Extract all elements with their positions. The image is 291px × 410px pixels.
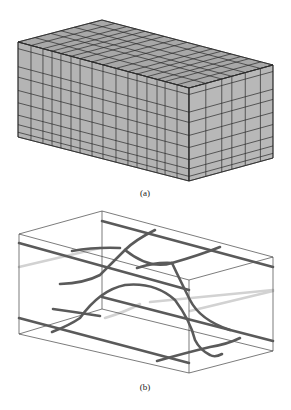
panel-a-label: (a) bbox=[140, 188, 150, 198]
panel-b-label: (b) bbox=[140, 382, 151, 392]
panel-a-mesh-box bbox=[18, 20, 273, 181]
panel-b-wireframe-box bbox=[19, 211, 273, 373]
dark-fiber-lines bbox=[19, 221, 273, 363]
figure-canvas bbox=[0, 0, 291, 410]
